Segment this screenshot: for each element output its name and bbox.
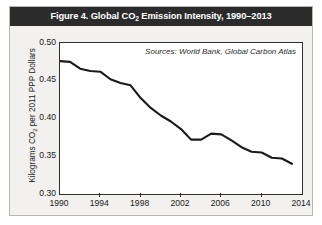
y-axis-tick-label: 0.35 (32, 151, 56, 160)
x-axis-tick-mark (261, 193, 262, 197)
series-line (60, 61, 292, 164)
figure-title-prefix: Figure 4. Global CO (50, 11, 135, 21)
x-axis-tick-label: 2006 (200, 198, 240, 208)
figure-title-subscript: 2 (135, 15, 139, 22)
x-axis-tick-label: 1998 (120, 198, 160, 208)
figure-title-suffix: Emission Intensity, 1990–2013 (139, 11, 272, 21)
x-axis-tick-mark (220, 193, 221, 197)
x-axis-tick-mark (99, 193, 100, 197)
y-axis-tick-labels: 0.300.350.400.450.50 (26, 7, 56, 217)
x-axis-tick-label: 1990 (39, 198, 79, 208)
x-axis-tick-label: 1994 (79, 198, 119, 208)
x-axis-tick-label: 2002 (160, 198, 200, 208)
y-axis-tick-label: 0.45 (32, 75, 56, 84)
source-annotation: Sources: World Bank, Global Carbon Atlas (145, 47, 296, 56)
y-axis-tick-label: 0.50 (32, 38, 56, 47)
figure-card: Figure 4. Global CO2 Emission Intensity,… (9, 6, 313, 216)
y-axis-tick-label: 0.30 (32, 189, 56, 198)
plot-area: Sources: World Bank, Global Carbon Atlas (59, 42, 303, 195)
x-axis-tick-mark (180, 193, 181, 197)
line-series-svg (60, 43, 302, 194)
x-axis-tick-label: 2014 (281, 198, 321, 208)
y-axis-tick-label: 0.40 (32, 113, 56, 122)
x-axis-tick-label: 2010 (241, 198, 281, 208)
x-axis-tick-mark (140, 193, 141, 197)
